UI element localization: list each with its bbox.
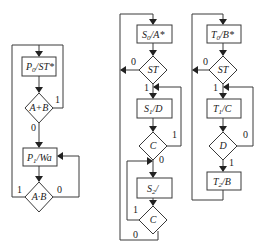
svg-text:C: C xyxy=(150,140,157,151)
svg-text:C: C xyxy=(150,214,157,225)
branch-label: 1 xyxy=(144,82,149,93)
state-box-s1: S1/D xyxy=(137,99,172,118)
decision-st: ST xyxy=(209,56,237,84)
state-box-t1: T1/C xyxy=(207,99,241,118)
branch-label: 1 xyxy=(17,184,22,195)
state-box-s0: S0/A* xyxy=(137,25,172,43)
right-flowchart: T0/B* ST 0 1 T1/C D 0 1 T2/B xyxy=(192,14,253,200)
branch-label: 0 xyxy=(243,129,248,140)
state-box-s2: S2/ xyxy=(137,178,172,198)
svg-text:A+B: A+B xyxy=(29,102,49,113)
branch-label: 0 xyxy=(159,154,164,165)
state-box-p0: P0/ST* xyxy=(22,57,56,76)
svg-text:D: D xyxy=(218,140,227,151)
branch-label: 1 xyxy=(133,204,138,215)
decision-d: D xyxy=(209,132,237,160)
left-flowchart: P0/ST* A+B 1 0 P1/Wa A·B 1 0 xyxy=(12,45,79,212)
middle-flowchart: S0/A* ST 0 1 S1/D C 1 0 S2/ xyxy=(120,14,181,240)
branch-label: 1 xyxy=(172,129,177,140)
branch-label: 1 xyxy=(55,94,60,105)
branch-label: 1 xyxy=(229,157,234,168)
svg-text:ST: ST xyxy=(148,64,160,75)
state-box-p1: P1/Wa xyxy=(23,148,57,166)
branch-label: 0 xyxy=(131,56,136,67)
decision-a-and-b: A·B xyxy=(25,182,53,212)
asm-diagram: P0/ST* A+B 1 0 P1/Wa A·B 1 0 xyxy=(0,0,266,247)
state-box-t2: T2/B xyxy=(207,172,241,190)
decision-c-2: C xyxy=(139,206,167,234)
decision-a-or-b: A+B xyxy=(25,93,53,123)
branch-label: 0 xyxy=(203,56,208,67)
branch-label: 0 xyxy=(57,184,62,195)
branch-label: 0 xyxy=(31,122,36,133)
state-box-t0: T0/B* xyxy=(207,25,241,43)
svg-text:ST: ST xyxy=(218,64,230,75)
branch-label: 1 xyxy=(213,82,218,93)
arrow xyxy=(120,14,153,24)
svg-text:A·B: A·B xyxy=(31,191,47,202)
branch-label: 0 xyxy=(133,229,138,240)
arrow xyxy=(192,14,223,24)
decision-st: ST xyxy=(139,56,167,84)
